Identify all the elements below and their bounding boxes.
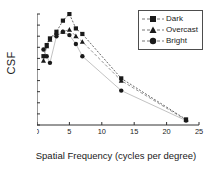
- data-point: [67, 12, 71, 16]
- data-point: [54, 34, 58, 38]
- csf-line-chart: CSF 0.00.10.20.30.40.50.60.70.80.91.0051…: [0, 0, 216, 170]
- data-point: [45, 54, 49, 58]
- data-point: [80, 32, 84, 36]
- legend-item-dark[interactable]: Dark: [142, 14, 198, 24]
- square-marker-icon: [142, 14, 164, 24]
- circle-marker-icon: [142, 36, 164, 46]
- triangle-marker-icon: [142, 25, 164, 35]
- x-axis-title: Spatial Frequency (cycles per degree): [18, 150, 214, 161]
- data-point: [67, 27, 72, 32]
- data-point: [61, 19, 65, 23]
- svg-text:5: 5: [67, 127, 71, 135]
- svg-text:0: 0: [37, 127, 39, 135]
- y-axis-title: CSF: [5, 35, 17, 91]
- data-point: [74, 26, 78, 30]
- svg-text:25: 25: [195, 127, 203, 135]
- data-point: [119, 88, 123, 92]
- data-point: [184, 118, 188, 122]
- data-point: [48, 61, 52, 65]
- chart-legend: Dark Overcast Bright: [138, 10, 203, 50]
- legend-label-dark: Dark: [166, 15, 183, 23]
- data-point: [67, 33, 71, 37]
- svg-text:20: 20: [162, 127, 170, 135]
- data-point: [80, 54, 84, 58]
- legend-label-bright: Bright: [166, 37, 187, 45]
- data-point: [41, 47, 45, 51]
- legend-label-overcast: Overcast: [166, 26, 198, 34]
- data-point: [74, 42, 78, 46]
- data-point: [41, 58, 46, 63]
- svg-text:10: 10: [98, 127, 106, 135]
- legend-item-overcast[interactable]: Overcast: [142, 25, 198, 35]
- data-point: [61, 30, 65, 34]
- legend-item-bright[interactable]: Bright: [142, 36, 198, 46]
- svg-text:15: 15: [130, 127, 138, 135]
